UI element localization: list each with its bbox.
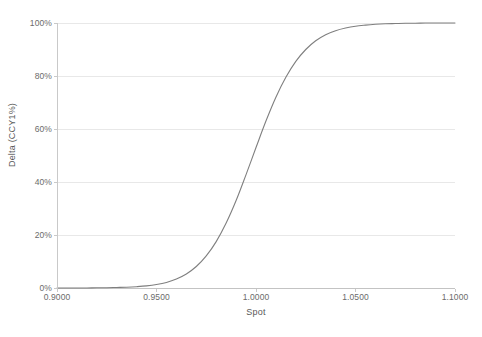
x-tick-label: 0.9000 [27,292,87,303]
x-tick-label: 1.0000 [226,292,286,303]
y-tick-label: 100% [18,19,52,28]
delta-curve-path [57,23,455,288]
y-tick-label: 80% [18,72,52,81]
x-axis-title: Spot [57,307,455,317]
y-axis-line [57,23,58,289]
y-axis-tick-labels: 100% 80% 60% 40% 20% 0% [14,0,52,337]
delta-curve [57,23,455,288]
y-axis-title: Delta (CCY1%) [7,75,17,195]
plot-area [57,23,455,288]
x-tick-label: 1.0500 [326,292,386,303]
x-axis-tick-labels: 0.9000 0.9500 1.0000 1.0500 1.1000 [57,292,455,306]
y-tick-label: 20% [18,231,52,240]
x-tick-label: 1.1000 [425,292,482,303]
delta-vs-spot-chart: 100% 80% 60% 40% 20% 0% 0.9000 0.9500 1.… [0,0,482,337]
y-tick-label: 60% [18,125,52,134]
y-tick-label: 40% [18,178,52,187]
x-tick-label: 0.9500 [127,292,187,303]
